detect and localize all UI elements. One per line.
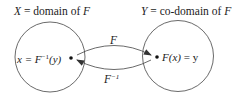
domain-point bbox=[69, 56, 73, 60]
domain-label: X = domain of F bbox=[14, 5, 90, 17]
inverse-arrow-label: F−1 bbox=[104, 73, 119, 85]
codomain-label: Y = co-domain of F bbox=[141, 5, 231, 17]
inverse-arrow bbox=[77, 60, 151, 70]
left-point-label: x = F−1(y) bbox=[17, 53, 61, 65]
forward-arrow-label: F bbox=[110, 34, 117, 46]
forward-arrow bbox=[77, 46, 151, 56]
codomain-point bbox=[155, 55, 159, 59]
right-point-label: F(x) = y bbox=[162, 51, 198, 63]
